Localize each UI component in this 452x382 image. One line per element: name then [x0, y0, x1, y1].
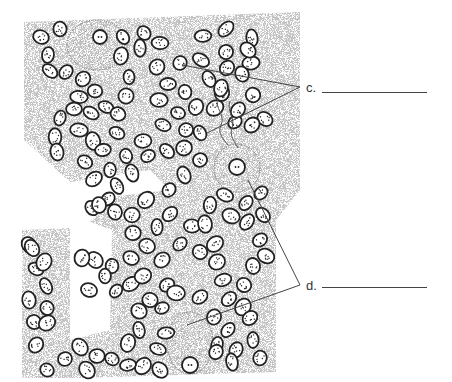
lymphocyte-cell	[151, 219, 162, 236]
lymphocyte-cell	[134, 39, 146, 57]
lymphocyte-cell	[104, 163, 116, 178]
lymphocyte-cell	[151, 36, 169, 50]
lymphocyte-cell	[134, 134, 152, 149]
lymphocyte-cell	[70, 90, 88, 103]
label-c: c.	[306, 80, 316, 95]
answer-blank-c[interactable]	[322, 92, 427, 93]
lymphocyte-cell	[53, 21, 67, 36]
lymphocyte-cell	[150, 93, 168, 107]
answer-blank-d[interactable]	[322, 287, 427, 288]
histology-diagram	[0, 0, 452, 382]
lymphocyte-cell	[89, 349, 105, 364]
lymphocyte-cell	[125, 225, 141, 240]
lymphocyte-cell	[123, 70, 135, 85]
lymphocyte-cell	[194, 30, 211, 43]
large-cell	[167, 312, 213, 374]
label-d: d.	[306, 278, 317, 293]
lymphocyte-cell	[99, 269, 111, 284]
lymphocyte-cell	[124, 208, 140, 223]
lymphocyte-cell	[203, 196, 217, 214]
lymphocyte-cell	[247, 332, 258, 348]
large-cell	[214, 144, 260, 192]
lymphocyte-cell	[66, 103, 82, 116]
lymphocyte-cell	[160, 78, 176, 90]
lymphocyte-cell	[79, 281, 99, 299]
lymphocyte-cell	[74, 249, 91, 268]
